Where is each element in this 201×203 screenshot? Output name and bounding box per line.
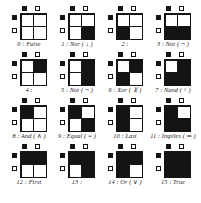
empty-square-icon <box>60 166 65 171</box>
column-input-markers <box>69 97 95 105</box>
output-matrix <box>116 105 143 132</box>
output-matrix <box>116 13 143 40</box>
function-caption: 4 : <box>5 86 53 94</box>
output-cell-false <box>21 164 35 178</box>
output-cell-true <box>165 72 179 86</box>
output-cell-false <box>117 60 131 74</box>
output-cell-true <box>81 164 95 178</box>
truth-table-cell: 8 : And ( ∧ ) <box>5 95 53 141</box>
output-cell-true <box>129 60 143 74</box>
output-cell-false <box>21 72 35 86</box>
output-cell-false <box>129 26 143 40</box>
output-cell-true <box>177 164 191 178</box>
column-input-markers <box>69 5 95 13</box>
output-cell-false <box>129 118 143 132</box>
output-cell-false <box>21 118 35 132</box>
column-input-markers <box>69 51 95 59</box>
empty-square-icon <box>156 28 161 33</box>
filled-square-icon <box>60 61 65 66</box>
function-caption: 8 : And ( ∧ ) <box>5 132 53 140</box>
empty-square-icon <box>131 52 136 57</box>
truth-table-cell: 4 : <box>5 49 53 95</box>
function-caption: 14 : Or ( ∨ ) <box>101 178 149 186</box>
column-input-markers <box>21 5 47 13</box>
output-matrix <box>20 13 47 40</box>
output-cell-false <box>33 72 47 86</box>
empty-square-icon <box>131 98 136 103</box>
empty-square-icon <box>179 144 184 149</box>
truth-table-cell: 7 : Nand ( ↑ ) <box>149 49 197 95</box>
truth-table-cell: 11 : Implies ( ⇒ ) <box>149 95 197 141</box>
output-cell-true <box>33 152 47 166</box>
empty-square-icon <box>83 6 88 11</box>
empty-square-icon <box>156 74 161 79</box>
row-input-markers <box>155 152 163 178</box>
filled-square-icon <box>108 61 113 66</box>
filled-square-icon <box>166 98 171 103</box>
empty-square-icon <box>12 120 17 125</box>
filled-square-icon <box>108 107 113 112</box>
filled-square-icon <box>156 107 161 112</box>
filled-square-icon <box>118 52 123 57</box>
output-cell-true <box>165 118 179 132</box>
truth-table-cell: 0 : False <box>5 3 53 49</box>
output-cell-false <box>69 26 83 40</box>
filled-square-icon <box>60 15 65 20</box>
function-caption: 0 : False <box>5 40 53 48</box>
output-cell-true <box>21 106 35 120</box>
row-input-markers <box>155 14 163 40</box>
truth-table-cell: 10 : Last <box>101 95 149 141</box>
output-cell-true <box>69 152 83 166</box>
output-matrix <box>164 105 191 132</box>
output-cell-false <box>69 164 83 178</box>
output-matrix <box>164 151 191 178</box>
output-cell-true <box>177 26 191 40</box>
output-cell-true <box>117 164 131 178</box>
output-cell-true <box>33 60 47 74</box>
boolean-functions-figure: 0 : False1 : Nor ( ↓ )2 :3 : Not ( ¬ )4 … <box>0 0 201 203</box>
output-cell-true <box>177 118 191 132</box>
empty-square-icon <box>35 6 40 11</box>
truth-table-cell: 9 : Equal ( = ) <box>53 95 101 141</box>
filled-square-icon <box>22 52 27 57</box>
function-caption: 11 : Implies ( ⇒ ) <box>149 132 197 140</box>
row-input-markers <box>107 152 115 178</box>
empty-square-icon <box>35 144 40 149</box>
empty-square-icon <box>156 166 161 171</box>
column-input-markers <box>165 143 191 151</box>
truth-table-cell: 12 : First <box>5 141 53 187</box>
filled-square-icon <box>156 153 161 158</box>
row-input-markers <box>59 14 67 40</box>
function-caption: 6 : Xor ( ⊻ ) <box>101 86 149 94</box>
empty-square-icon <box>179 98 184 103</box>
filled-square-icon <box>166 52 171 57</box>
output-cell-false <box>69 14 83 28</box>
truth-table-cell: 2 : <box>101 3 149 49</box>
empty-square-icon <box>108 74 113 79</box>
empty-square-icon <box>131 144 136 149</box>
truth-table-grid: 0 : False1 : Nor ( ↓ )2 :3 : Not ( ¬ )4 … <box>0 0 201 187</box>
filled-square-icon <box>60 153 65 158</box>
output-cell-false <box>177 14 191 28</box>
output-cell-false <box>129 106 143 120</box>
empty-square-icon <box>83 98 88 103</box>
filled-square-icon <box>108 15 113 20</box>
truth-table-cell: 13 : <box>53 141 101 187</box>
output-cell-false <box>33 14 47 28</box>
output-cell-true <box>81 118 95 132</box>
output-cell-true <box>21 152 35 166</box>
output-cell-true <box>177 72 191 86</box>
output-matrix <box>116 59 143 86</box>
empty-square-icon <box>156 120 161 125</box>
function-caption: 10 : Last <box>101 132 149 140</box>
output-cell-false <box>81 14 95 28</box>
empty-square-icon <box>12 74 17 79</box>
row-input-markers <box>155 106 163 132</box>
output-cell-false <box>33 26 47 40</box>
filled-square-icon <box>70 98 75 103</box>
column-input-markers <box>165 51 191 59</box>
filled-square-icon <box>12 107 17 112</box>
row-input-markers <box>59 60 67 86</box>
filled-square-icon <box>12 153 17 158</box>
column-input-markers <box>21 97 47 105</box>
